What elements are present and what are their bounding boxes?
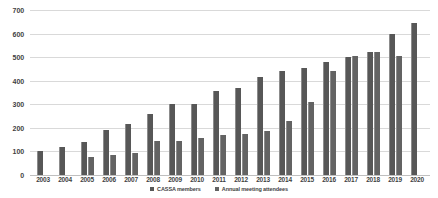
plot-area — [30, 10, 430, 175]
y-axis-tick-200: 200 — [13, 124, 24, 131]
x-axis-tick-2020: 2020 — [406, 176, 428, 186]
bar-group-2006 — [98, 10, 120, 175]
bar-2015-series1 — [301, 68, 307, 175]
bar-2017-series1 — [345, 57, 351, 175]
legend-swatch-icon-1 — [150, 187, 154, 191]
x-axis-tick-2006: 2006 — [98, 176, 120, 186]
legend-item-2[interactable]: Annual meeting attendees — [215, 186, 288, 192]
bar-2005-series2 — [88, 157, 94, 175]
bar-2011-series1 — [213, 91, 219, 175]
x-axis-tick-2017: 2017 — [340, 176, 362, 186]
legend-item-1[interactable]: CASSA members — [150, 186, 201, 192]
bar-group-2010 — [186, 10, 208, 175]
legend-swatch-icon-2 — [215, 187, 219, 191]
legend-label-2: Annual meeting attendees — [222, 186, 288, 192]
bar-groups — [30, 10, 430, 175]
bar-group-2013 — [252, 10, 274, 175]
bar-group-2018 — [362, 10, 384, 175]
legend-label-1: CASSA members — [157, 186, 201, 192]
x-axis-tick-2010: 2010 — [186, 176, 208, 186]
bar-2009-series2 — [176, 141, 182, 175]
bar-2007-series1 — [125, 124, 131, 175]
bar-2008-series1 — [147, 114, 153, 175]
bar-group-2007 — [120, 10, 142, 175]
bar-2015-series2 — [308, 102, 314, 175]
bar-2005-series1 — [81, 142, 87, 175]
y-axis-tick-600: 600 — [13, 30, 24, 37]
x-axis-tick-2003: 2003 — [32, 176, 54, 186]
bar-group-2012 — [230, 10, 252, 175]
bar-2018-series1 — [367, 52, 373, 175]
bar-group-2017 — [340, 10, 362, 175]
bar-group-2009 — [164, 10, 186, 175]
y-axis: 7006005004003002001000 — [0, 10, 28, 175]
bar-group-2008 — [142, 10, 164, 175]
x-axis-tick-2014: 2014 — [274, 176, 296, 186]
bar-2018-series2 — [374, 52, 380, 175]
bar-2003-series1 — [37, 151, 43, 175]
bar-group-2004 — [54, 10, 76, 175]
bar-2020-series1 — [411, 23, 417, 175]
bar-2007-series2 — [132, 153, 138, 175]
x-axis-tick-2018: 2018 — [362, 176, 384, 186]
bar-2019-series1 — [389, 34, 395, 175]
bar-group-2019 — [384, 10, 406, 175]
bar-group-2016 — [318, 10, 340, 175]
bar-group-2003 — [32, 10, 54, 175]
x-axis-tick-2013: 2013 — [252, 176, 274, 186]
bar-2010-series1 — [191, 104, 197, 175]
x-axis-tick-2005: 2005 — [76, 176, 98, 186]
chart-legend: CASSA membersAnnual meeting attendees — [0, 186, 438, 192]
bar-2017-series2 — [352, 56, 358, 175]
x-axis-tick-2016: 2016 — [318, 176, 340, 186]
x-axis-tick-2009: 2009 — [164, 176, 186, 186]
y-axis-tick-100: 100 — [13, 148, 24, 155]
y-axis-tick-400: 400 — [13, 77, 24, 84]
y-axis-tick-300: 300 — [13, 101, 24, 108]
bar-group-2020 — [406, 10, 428, 175]
bar-group-2015 — [296, 10, 318, 175]
x-axis: 2003200420052006200720082009201020112012… — [30, 176, 430, 186]
bar-2004-series1 — [59, 147, 65, 175]
bar-2014-series2 — [286, 121, 292, 175]
bar-2012-series1 — [235, 88, 241, 175]
x-axis-tick-2004: 2004 — [54, 176, 76, 186]
bar-2013-series1 — [257, 77, 263, 175]
bar-chart: 7006005004003002001000 20032004200520062… — [0, 0, 438, 198]
bar-2016-series2 — [330, 71, 336, 175]
x-axis-tick-2008: 2008 — [142, 176, 164, 186]
bar-group-2014 — [274, 10, 296, 175]
bar-2011-series2 — [220, 135, 226, 175]
x-axis-tick-2012: 2012 — [230, 176, 252, 186]
bar-2019-series2 — [396, 56, 402, 175]
y-axis-tick-700: 700 — [13, 7, 24, 14]
bar-2009-series1 — [169, 104, 175, 175]
bar-2013-series2 — [264, 131, 270, 175]
bar-group-2011 — [208, 10, 230, 175]
bar-2008-series2 — [154, 141, 160, 175]
x-axis-tick-2015: 2015 — [296, 176, 318, 186]
x-axis-tick-2011: 2011 — [208, 176, 230, 186]
bar-2010-series2 — [198, 138, 204, 175]
bar-2006-series1 — [103, 130, 109, 175]
x-axis-tick-2007: 2007 — [120, 176, 142, 186]
bar-2006-series2 — [110, 155, 116, 175]
bar-group-2005 — [76, 10, 98, 175]
bar-2016-series1 — [323, 62, 329, 175]
bar-2014-series1 — [279, 71, 285, 175]
y-axis-tick-0: 0 — [20, 172, 24, 179]
x-axis-tick-2019: 2019 — [384, 176, 406, 186]
y-axis-tick-500: 500 — [13, 54, 24, 61]
bar-2012-series2 — [242, 134, 248, 175]
